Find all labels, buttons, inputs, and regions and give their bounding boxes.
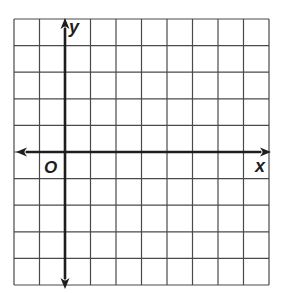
y-axis-label: y xyxy=(69,18,79,36)
origin-label: O xyxy=(44,159,57,176)
axes xyxy=(16,18,271,289)
x-axis-label: x xyxy=(255,157,265,175)
coordinate-grid xyxy=(0,0,283,293)
coordinate-plane: y x O xyxy=(0,0,283,293)
